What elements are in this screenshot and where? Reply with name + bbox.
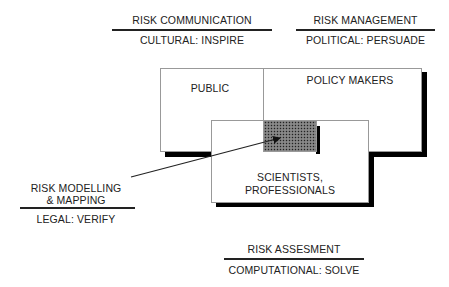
risk-modelling-title-2: & MAPPING xyxy=(18,194,134,206)
risk-modelling-subtitle: LEGAL: VERIFY xyxy=(18,213,134,225)
risk-modelling-divider xyxy=(20,207,135,209)
risk-assessment-subtitle: COMPUTATIONAL: SOLVE xyxy=(224,264,364,276)
risk-assessment-title: RISK ASSESMENT xyxy=(224,243,364,255)
risk-modelling-title-1: RISK MODELLING xyxy=(18,182,134,194)
risk-assessment-divider xyxy=(224,258,364,260)
